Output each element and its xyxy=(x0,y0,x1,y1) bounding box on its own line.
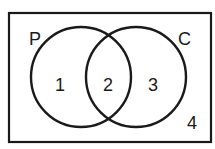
set-c-circle xyxy=(86,27,186,127)
set-p-circle xyxy=(31,27,131,127)
set-c-label: C xyxy=(178,29,191,49)
set-p-label: P xyxy=(29,29,41,49)
region-3-label: 3 xyxy=(148,75,158,95)
region-1-label: 1 xyxy=(55,75,65,95)
region-2-label: 2 xyxy=(103,75,113,95)
region-4-label: 4 xyxy=(187,113,197,133)
venn-diagram: P C 1 2 3 4 xyxy=(0,0,215,149)
